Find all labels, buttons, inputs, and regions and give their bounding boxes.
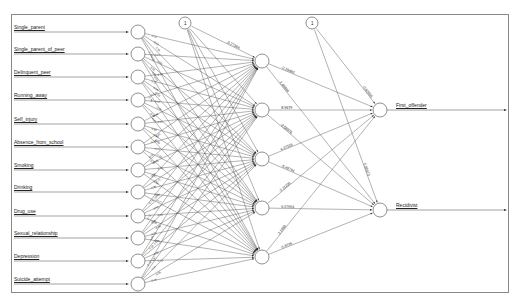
- weight-label-bias2-o2: 0.80573: [362, 163, 370, 177]
- arrow-head: [370, 113, 372, 115]
- arrow-head: [370, 209, 372, 211]
- weight-label: -0.65: [152, 158, 160, 164]
- arrow-head: [252, 204, 254, 206]
- arrow-head: [126, 215, 129, 217]
- weight-label-h3-o2: -5.49744: [281, 164, 296, 173]
- edge-input-10-hidden-2: [143, 116, 257, 233]
- weight-label-h5-o1: 3.1966: [277, 224, 287, 235]
- input-label-10: Sexual_relationship: [14, 230, 58, 236]
- arrow-head: [504, 109, 507, 111]
- weight-label: -0.38: [152, 112, 160, 118]
- weight-label: -0.49: [150, 277, 157, 282]
- weight-label-h4-o1: -2.11236: [278, 181, 291, 193]
- weight-label-h5-o2: -3.6736: [280, 242, 293, 250]
- arrow-head: [252, 257, 254, 259]
- arrow-head: [504, 209, 507, 211]
- arrow-head: [256, 150, 258, 152]
- arrow-head: [126, 99, 129, 101]
- hidden-node-4: [255, 201, 269, 215]
- neural-network-plot: -0.10-0.23-0.36-0.49-0.62-0.17-0.30-0.43…: [0, 0, 519, 304]
- arrow-head: [258, 247, 260, 249]
- weight-label: -0.44: [154, 99, 161, 104]
- edge-bias1-hidden-1: [191, 26, 255, 57]
- weight-label-h3-o1: 4.27516: [280, 143, 294, 152]
- input-label-6: Absence_from_school: [14, 139, 63, 145]
- edge-input-7-hidden-1: [143, 66, 256, 165]
- weight-label: -0.92: [152, 205, 160, 211]
- weight-label: -0.51: [157, 120, 164, 125]
- arrow-head: [252, 253, 254, 255]
- arrow-head: [252, 63, 254, 65]
- weight-label-h4-o2: 6.57664: [281, 205, 294, 209]
- arrow-head: [126, 31, 129, 33]
- output-label-1: First_offender: [396, 102, 427, 108]
- input-label-9: Drug_use: [14, 208, 36, 214]
- input-node-5: [131, 117, 145, 131]
- output-node-1: [373, 103, 387, 117]
- hidden-node-3: [255, 152, 269, 166]
- edge-bias2-output-2: [314, 30, 377, 203]
- arrow-head: [252, 156, 254, 158]
- input-node-4: [131, 93, 145, 107]
- hidden-node-1: [255, 54, 269, 68]
- arrow-head: [370, 213, 372, 214]
- weight-label: -0.36: [154, 270, 162, 277]
- arrow-head: [126, 76, 129, 78]
- input-label-1: Single_parent: [14, 24, 45, 30]
- arrow-head: [370, 109, 372, 111]
- weight-label-h2-o1: 8.9679: [281, 106, 292, 110]
- weight-label: -0.85: [150, 184, 157, 190]
- input-node-2: [131, 47, 145, 61]
- arrow-head: [371, 205, 373, 207]
- weight-label: -0.10: [151, 34, 158, 39]
- input-label-3: Delinquent_peer: [14, 69, 51, 75]
- arrow-head: [126, 283, 129, 285]
- weight-label: -0.52: [147, 152, 154, 159]
- hidden-node-5: [255, 250, 269, 264]
- input-node-6: [131, 140, 145, 154]
- input-label-11: Depression: [14, 253, 39, 259]
- arrow-head: [126, 237, 129, 239]
- arrow-head: [370, 105, 372, 107]
- input-node-10: [131, 231, 145, 245]
- edge-input-10-hidden-3: [144, 163, 255, 234]
- weight-label: -0.23: [150, 264, 157, 271]
- edge-input-11-hidden-4: [144, 211, 254, 258]
- arrow-head: [253, 56, 255, 58]
- arrow-head: [252, 208, 254, 210]
- input-label-8: Drinking: [14, 184, 32, 190]
- input-node-11: [131, 254, 145, 268]
- arrow-head: [252, 107, 254, 109]
- input-node-7: [131, 163, 145, 177]
- input-node-8: [131, 185, 145, 199]
- weight-label: -0.15: [157, 213, 164, 217]
- output-label-2: Recidivist: [396, 202, 417, 208]
- output-node-2: [373, 203, 387, 217]
- arrow-head: [126, 169, 129, 171]
- input-node-9: [131, 209, 145, 223]
- weight-label-h1-o1: -2.36482: [281, 66, 296, 75]
- hidden-node-2: [255, 103, 269, 117]
- input-label-4: Running_away: [14, 92, 47, 98]
- edge-input-9-hidden-2: [143, 115, 256, 211]
- arrow-head: [252, 255, 254, 257]
- input-label-2: Single_parent_of_peer: [14, 46, 65, 52]
- weight-label-h1-o2: 1.48684: [279, 80, 290, 93]
- weight-label: -0.29: [152, 250, 160, 256]
- arrow-head: [126, 191, 129, 193]
- arrow-head: [126, 260, 129, 262]
- arrow-head: [376, 200, 378, 202]
- input-label-12: Suicide_attempt: [14, 276, 50, 282]
- arrow-head: [257, 198, 259, 200]
- arrow-head: [126, 53, 129, 55]
- weight-label: -0.17: [154, 53, 161, 57]
- weight-label: -0.45: [154, 132, 162, 139]
- edge-bias1-hidden-4: [188, 29, 259, 200]
- arrow-head: [252, 161, 254, 163]
- weight-label-bias1-h1: -0.27384: [226, 40, 240, 50]
- weight-label: -0.24: [157, 72, 164, 77]
- input-label-5: Self_injury: [14, 116, 37, 122]
- arrow-head: [126, 123, 129, 125]
- arrow-head: [126, 146, 129, 148]
- arrow-head: [252, 60, 254, 62]
